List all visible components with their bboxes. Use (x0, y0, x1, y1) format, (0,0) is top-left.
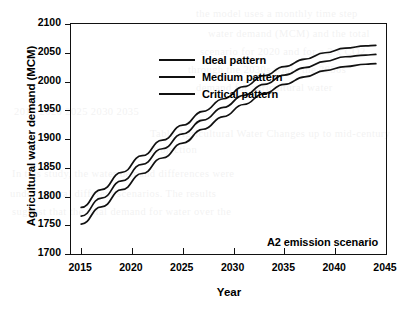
y-axis-tick (65, 82, 71, 83)
legend-line-swatch (159, 59, 195, 61)
x-axis-tick (386, 248, 387, 254)
y-axis-title: Agricultural water demand (MCM) (25, 11, 37, 261)
x-axis-tick-label: 2025 (162, 261, 202, 273)
legend-item-label: Medium pattern (202, 71, 283, 83)
x-axis-tick-label: 2020 (111, 261, 151, 273)
y-axis-tick-label: 2000 (38, 74, 61, 86)
plot-area: Ideal patternMedium patternCritical patt… (70, 23, 387, 255)
x-axis-tick (132, 248, 133, 254)
legend-item-ideal-pattern[interactable]: Ideal pattern (159, 53, 283, 67)
legend-item-label: Ideal pattern (202, 54, 266, 66)
y-axis-tick (65, 110, 71, 111)
y-axis-tick (65, 139, 71, 140)
y-axis-tick-label: 2050 (38, 45, 61, 57)
y-axis-tick (65, 225, 71, 226)
y-axis-tick-label: 1750 (38, 217, 61, 229)
x-axis-tick-label: 2030 (213, 261, 253, 273)
y-axis-tick-label: 1700 (38, 246, 61, 258)
x-axis-tick (284, 248, 285, 254)
y-axis-tick (65, 197, 71, 198)
y-axis-tick-label: 1850 (38, 160, 61, 172)
x-axis-tick-label: 2015 (60, 261, 100, 273)
y-axis-tick (65, 24, 71, 25)
y-axis-tick-label: 1950 (38, 102, 61, 114)
legend-line-swatch (159, 93, 195, 95)
x-axis-tick-label: 2040 (314, 261, 354, 273)
x-axis-title: Year (70, 286, 388, 298)
legend-item-medium-pattern[interactable]: Medium pattern (159, 70, 283, 84)
legend-item-label: Critical pattern (202, 88, 278, 100)
y-axis-tick (65, 254, 71, 255)
y-axis-tick-label: 1800 (38, 189, 61, 201)
x-axis-tick (81, 248, 82, 254)
x-axis-tick-label: 2045 (365, 261, 404, 273)
legend-item-critical-pattern[interactable]: Critical pattern (159, 87, 283, 101)
scenario-annotation: A2 emission scenario (267, 236, 378, 248)
x-axis-tick (335, 248, 336, 254)
legend-line-swatch (159, 76, 195, 78)
x-axis-tick (234, 248, 235, 254)
y-axis-tick-label: 2100 (38, 16, 61, 28)
chart-figure: Agricultural water demand (MCM) Ideal pa… (0, 0, 404, 310)
y-axis-tick (65, 53, 71, 54)
x-axis-tick (183, 248, 184, 254)
x-axis-tick-label: 2035 (263, 261, 303, 273)
y-axis-tick-label: 1900 (38, 131, 61, 143)
chart-legend: Ideal patternMedium patternCritical patt… (159, 53, 283, 101)
y-axis-tick (65, 168, 71, 169)
